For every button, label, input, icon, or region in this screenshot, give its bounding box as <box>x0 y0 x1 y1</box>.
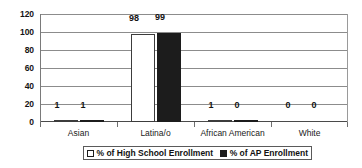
x-axis: Asian Latina/o African American White <box>40 127 348 141</box>
filled-square-icon <box>220 150 227 157</box>
value-label-white-ap-enrollment: 0 <box>302 100 326 110</box>
y-axis: 120 100 80 60 40 20 0 <box>8 0 34 168</box>
gridline-120 <box>41 14 347 15</box>
value-label-white-high-school-enrollment: 0 <box>276 100 300 110</box>
legend-label-ap-enrollment: % of AP Enrollment <box>230 148 308 158</box>
gridline-60 <box>41 68 347 69</box>
x-label-asian: Asian <box>40 127 117 139</box>
y-tick-label-20: 20 <box>8 100 34 109</box>
bar-chart: 120 100 80 60 40 20 0 1 1 98 99 1 0 <box>0 0 362 168</box>
value-label-latina-high-school-enrollment: 98 <box>122 13 146 23</box>
y-tick-label-100: 100 <box>8 28 34 37</box>
legend-entry-ap-enrollment: % of AP Enrollment <box>220 148 308 158</box>
x-label-african-american: African American <box>194 127 271 139</box>
y-tick-label-40: 40 <box>8 82 34 91</box>
value-label-latina-ap-enrollment: 99 <box>148 12 172 22</box>
gridline-100 <box>41 32 347 33</box>
y-tick-label-120: 120 <box>8 10 34 19</box>
hollow-square-icon <box>87 150 94 157</box>
x-label-latina: Latina/o <box>117 127 194 139</box>
bar-latina-ap-enrollment <box>157 33 181 122</box>
value-label-asian-ap-enrollment: 1 <box>71 100 95 110</box>
value-label-asian-high-school-enrollment: 1 <box>45 100 69 110</box>
value-label-african-american-high-school-enrollment: 1 <box>199 100 223 110</box>
x-label-white: White <box>271 127 348 139</box>
gridline-40 <box>41 86 347 87</box>
bar-latina-high-school-enrollment <box>131 34 155 122</box>
y-tick-label-0: 0 <box>8 118 34 127</box>
legend-entry-high-school-enrollment: % of High School Enrollment <box>87 148 213 158</box>
gridline-80 <box>41 50 347 51</box>
y-tick-label-80: 80 <box>8 46 34 55</box>
legend: % of High School Enrollment % of AP Enro… <box>83 146 312 160</box>
value-label-african-american-ap-enrollment: 0 <box>225 100 249 110</box>
legend-label-high-school-enrollment: % of High School Enrollment <box>97 148 214 158</box>
y-tick-label-60: 60 <box>8 64 34 73</box>
